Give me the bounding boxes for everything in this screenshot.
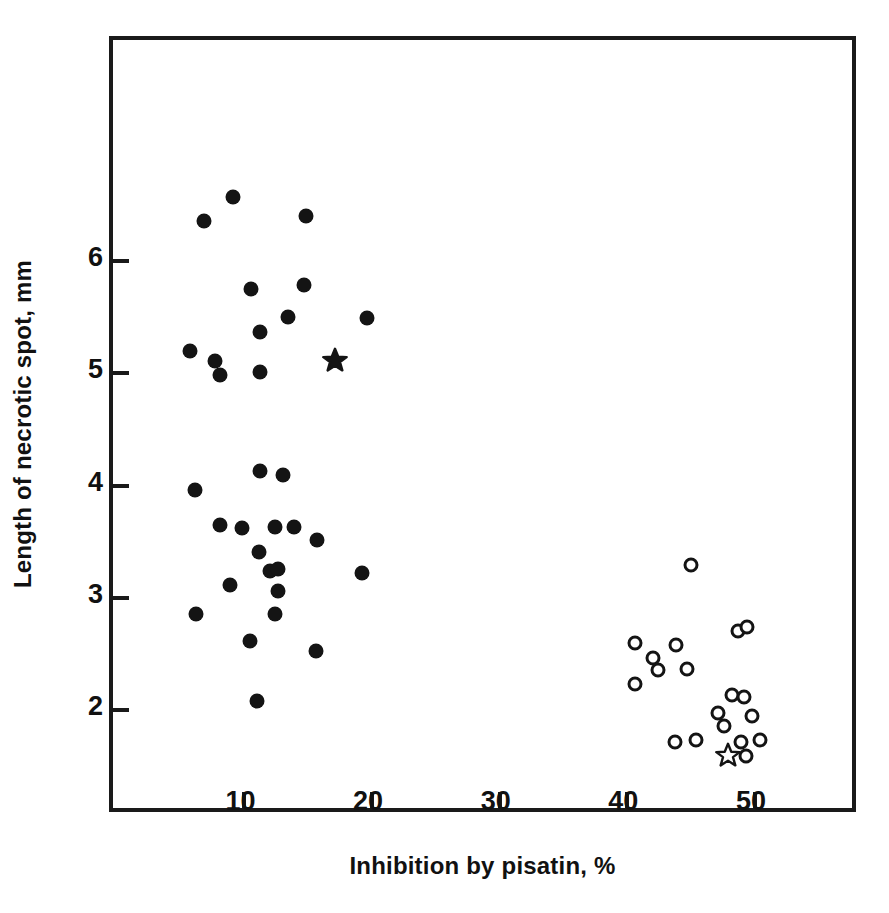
- y-axis-tick-label: 6: [88, 242, 103, 273]
- data-point-filled-circle: [268, 606, 283, 621]
- y-axis-tick: [112, 596, 129, 600]
- y-axis-label-text: Length of necrotic spot, mm: [9, 260, 37, 588]
- x-axis-tick-label: 40: [608, 786, 638, 817]
- data-point-filled-circle: [268, 520, 283, 535]
- data-point-filled-circle: [252, 324, 267, 339]
- y-axis-tick-label: 2: [88, 691, 103, 722]
- data-point-open-circle: [628, 677, 643, 692]
- data-point-filled-circle: [270, 561, 285, 576]
- data-point-filled-circle: [243, 282, 258, 297]
- data-point-open-circle: [736, 689, 751, 704]
- data-point-filled-circle: [308, 643, 323, 658]
- data-point-filled-circle: [251, 545, 266, 560]
- data-point-open-circle: [628, 635, 643, 650]
- data-point-filled-circle: [270, 584, 285, 599]
- data-point-open-circle: [667, 734, 682, 749]
- data-point-filled-circle: [252, 365, 267, 380]
- data-point-filled-circle: [297, 277, 312, 292]
- x-axis-tick-label: 50: [736, 786, 766, 817]
- data-point-open-circle: [684, 558, 699, 573]
- data-point-open-circle: [717, 719, 732, 734]
- data-point-filled-circle: [354, 566, 369, 581]
- data-point-open-circle: [740, 620, 755, 635]
- y-axis-tick: [112, 484, 129, 488]
- data-point-filled-circle: [188, 606, 203, 621]
- x-axis-tick-label: 20: [353, 786, 383, 817]
- data-point-filled-circle: [234, 521, 249, 536]
- data-point-filled-circle: [275, 467, 290, 482]
- x-axis-tick-label: 10: [225, 786, 255, 817]
- data-point-open-circle: [753, 732, 768, 747]
- scatter-plot-figure: Length of necrotic spot, mm 234561020304…: [0, 0, 889, 913]
- data-point-filled-circle: [250, 694, 265, 709]
- data-point-open-circle: [680, 661, 695, 676]
- y-axis-tick: [112, 371, 129, 375]
- y-axis-label: Length of necrotic spot, mm: [0, 36, 46, 812]
- data-point-open-circle: [745, 708, 760, 723]
- data-point-filled-circle: [242, 633, 257, 648]
- data-point-open-circle: [668, 638, 683, 653]
- data-point-filled-circle: [223, 577, 238, 592]
- plot-area: [113, 40, 852, 808]
- data-point-filled-circle: [298, 209, 313, 224]
- data-point-filled-circle: [213, 518, 228, 533]
- data-point-filled-circle: [359, 311, 374, 326]
- y-axis-tick-label: 4: [88, 466, 103, 497]
- data-point-filled-circle: [187, 483, 202, 498]
- data-point-open-circle: [650, 662, 665, 677]
- plot-frame: [109, 36, 856, 812]
- x-axis-label: Inhibition by pisatin, %: [109, 852, 856, 880]
- data-point-filled-circle: [310, 532, 325, 547]
- data-point-open-circle: [689, 732, 704, 747]
- data-point-filled-circle: [280, 310, 295, 325]
- data-point-filled-circle: [225, 190, 240, 205]
- y-axis-tick: [112, 259, 129, 263]
- y-axis-tick: [112, 708, 129, 712]
- data-point-filled-circle: [287, 520, 302, 535]
- data-point-open-star: [715, 742, 741, 768]
- data-point-filled-circle: [182, 344, 197, 359]
- data-point-filled-circle: [252, 464, 267, 479]
- data-point-filled-circle: [213, 367, 228, 382]
- data-point-filled-star: [322, 347, 348, 373]
- y-axis-tick-label: 5: [88, 354, 103, 385]
- x-axis-tick-label: 30: [481, 786, 511, 817]
- y-axis-tick-label: 3: [88, 579, 103, 610]
- data-point-filled-circle: [196, 213, 211, 228]
